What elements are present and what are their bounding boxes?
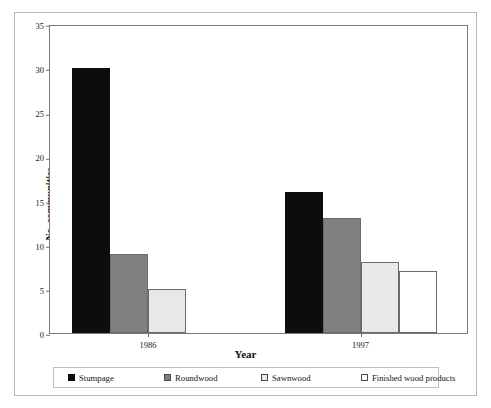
plot-area: 05101520253035 19861997 <box>49 25 468 334</box>
figure-frame: No. communities 05101520253035 19861997 … <box>14 12 477 396</box>
legend-item-roundwood: Roundwood <box>164 373 217 383</box>
y-axis-tick-label: 30 <box>36 66 51 75</box>
y-axis-tick-label: 20 <box>36 154 51 163</box>
x-axis-title: Year <box>15 348 476 360</box>
bar-stumpage-1997 <box>285 192 323 333</box>
roundwood-swatch-icon <box>164 374 171 381</box>
legend-item-label: Roundwood <box>175 373 217 383</box>
legend-item-finished: Finished wood products <box>361 373 456 383</box>
bar-finished-1997 <box>399 271 437 333</box>
bar-sawnwood-1997 <box>361 262 399 333</box>
stumpage-swatch-icon <box>68 374 75 381</box>
y-axis-tick-label: 15 <box>36 198 51 207</box>
legend-item-label: Sawnwood <box>272 373 311 383</box>
y-axis-tick-label: 5 <box>40 287 50 296</box>
bar-stumpage-1986 <box>72 68 110 333</box>
bar-roundwood-1986 <box>110 254 148 333</box>
x-axis-tick-mark <box>361 333 362 337</box>
bar-sawnwood-1986 <box>148 289 186 333</box>
bar-roundwood-1997 <box>323 218 361 333</box>
y-axis-tick-label: 0 <box>40 331 50 340</box>
legend-item-sawnwood: Sawnwood <box>261 373 311 383</box>
legend-item-label: Stumpage <box>79 373 114 383</box>
x-axis-tick-mark <box>148 333 149 337</box>
finished-wood-products-swatch-icon <box>361 374 368 381</box>
y-axis-tick-label: 25 <box>36 110 51 119</box>
legend-item-label: Finished wood products <box>372 373 456 383</box>
legend-item-stumpage: Stumpage <box>68 373 114 383</box>
chart-legend: StumpageRoundwoodSawnwoodFinished wood p… <box>53 367 439 388</box>
y-axis-tick-label: 10 <box>36 242 51 251</box>
sawnwood-swatch-icon <box>261 374 268 381</box>
y-axis-tick-label: 35 <box>36 22 51 31</box>
bar-group <box>50 26 467 333</box>
